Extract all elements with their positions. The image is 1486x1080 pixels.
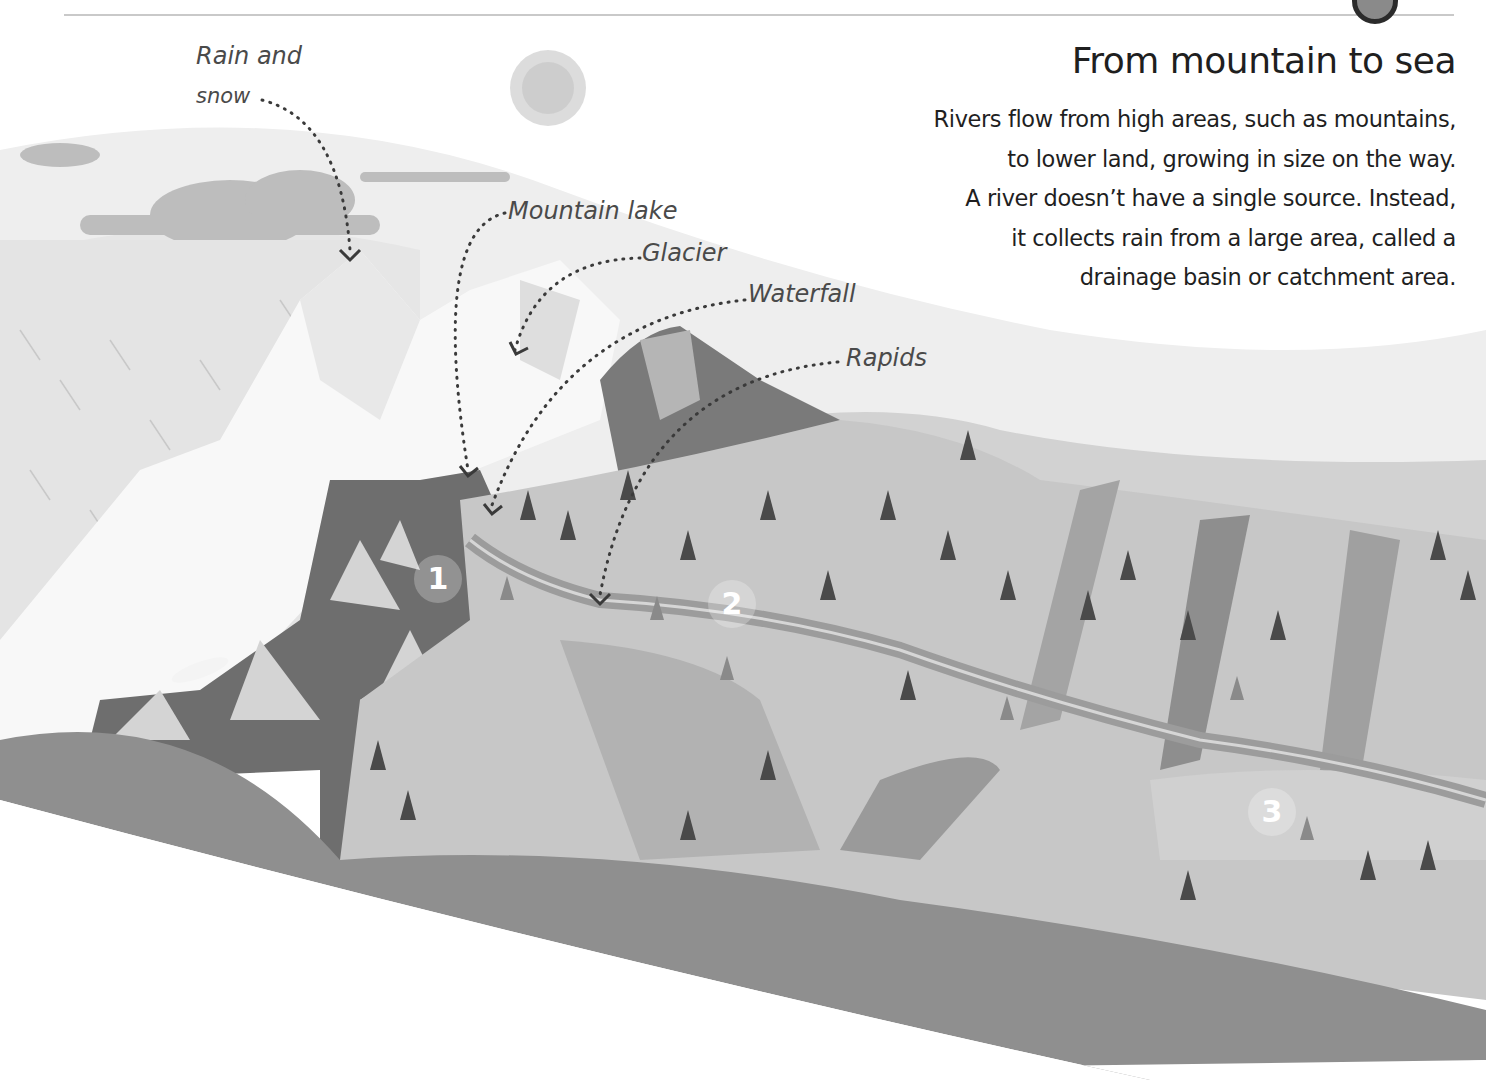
label-rain-and-snow-line1: Rain and [196,42,302,70]
label-rapids: Rapids [846,344,927,372]
label-glacier: Glacier [642,239,726,267]
label-mountain-lake: Mountain lake [508,197,677,225]
intro-line: Rivers flow from high areas, such as mou… [816,100,1456,140]
marker-3: 3 [1248,788,1296,836]
header-rule [64,14,1454,16]
intro-line: it collects rain from a large area, call… [816,219,1456,259]
intro-line: to lower land, growing in size on the wa… [816,140,1456,180]
marker-1: 1 [414,555,462,603]
intro-line: A river doesn’t have a single source. In… [816,179,1456,219]
intro-line: drainage basin or catchment area. [816,258,1456,298]
label-waterfall: Waterfall [748,280,856,308]
label-rain-and-snow-line2: snow [196,84,250,108]
marker-2: 2 [708,580,756,628]
intro-paragraph: Rivers flow from high areas, such as mou… [816,100,1456,298]
page-title: From mountain to sea [1072,40,1456,81]
